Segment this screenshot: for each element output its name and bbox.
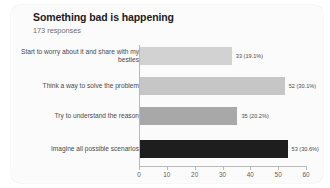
chart-header: Something bad is happening 173 responses xyxy=(33,11,293,36)
bar-value-label: 35 (20.2%) xyxy=(241,107,268,125)
response-count: 173 responses xyxy=(33,25,293,36)
page-title: Something bad is happening xyxy=(33,11,293,24)
bar-value-label: 33 (19.1%) xyxy=(236,47,263,65)
bar[interactable] xyxy=(140,107,237,125)
bar-category-label: Imagine all possible scenarios xyxy=(21,145,139,153)
bar-chart-plot: 0102030405060 Start to worry about it an… xyxy=(11,43,323,178)
x-tick-mark xyxy=(195,167,196,170)
bar-value-label: 53 (30.6%) xyxy=(292,140,319,158)
bar-row: Try to understand the reason35 (20.2%) xyxy=(11,107,323,125)
x-tick-label: 60 xyxy=(302,171,309,178)
x-tick-label: 10 xyxy=(163,171,170,178)
bar[interactable] xyxy=(140,77,285,95)
bar-category-label: Start to worry about it and share with m… xyxy=(21,48,139,64)
bar-row: Think a way to solve the problem52 (30.1… xyxy=(11,77,323,95)
bar-row: Start to worry about it and share with m… xyxy=(11,47,323,65)
x-tick-mark xyxy=(223,167,224,170)
bar[interactable] xyxy=(140,47,232,65)
x-tick-mark xyxy=(306,167,307,170)
chart-card: Something bad is happening 173 responses… xyxy=(11,5,323,183)
x-tick-mark xyxy=(167,167,168,170)
bar-value-label: 52 (30.1%) xyxy=(289,77,316,95)
x-tick-label: 20 xyxy=(191,171,198,178)
x-tick-mark xyxy=(250,167,251,170)
x-tick-mark xyxy=(139,167,140,170)
bar-row: Imagine all possible scenarios53 (30.6%) xyxy=(11,140,323,158)
x-tick-label: 50 xyxy=(275,171,282,178)
x-tick-mark xyxy=(278,167,279,170)
x-tick-label: 40 xyxy=(247,171,254,178)
bar[interactable] xyxy=(140,140,288,158)
bar-category-label: Think a way to solve the problem xyxy=(21,82,139,90)
x-tick-label: 0 xyxy=(137,171,141,178)
bar-category-label: Try to understand the reason xyxy=(21,112,139,120)
x-tick-label: 30 xyxy=(219,171,226,178)
